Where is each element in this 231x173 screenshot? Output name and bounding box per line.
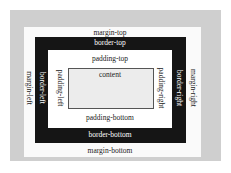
- border-right-label: border-right: [175, 70, 183, 106]
- border-bottom-label: border-bottom: [88, 131, 131, 139]
- margin-top-label: margin-top: [93, 29, 126, 37]
- padding-left-label: padding-left: [56, 70, 64, 107]
- padding-bottom-label: padding-bottom: [86, 114, 134, 122]
- content-label: content: [99, 71, 121, 79]
- border-left-label: border-left: [38, 72, 46, 104]
- margin-left-label: margin-left: [25, 71, 33, 105]
- padding-top-label: padding-top: [92, 55, 128, 63]
- padding-right-label: padding-right: [157, 68, 165, 109]
- border-top-label: border-top: [94, 39, 126, 47]
- margin-bottom-label: margin-bottom: [88, 147, 133, 155]
- margin-right-label: margin-right: [189, 69, 197, 107]
